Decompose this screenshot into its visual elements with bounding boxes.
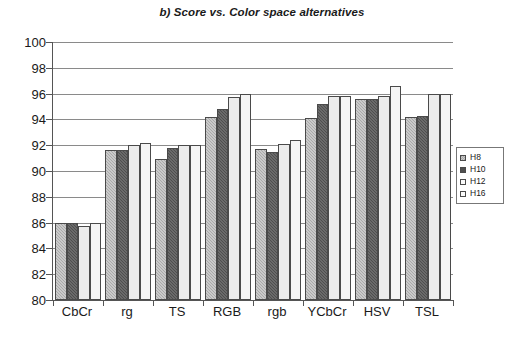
bar-HSV-H10 [367, 99, 379, 300]
x-axis-label-rgb: rgb [268, 304, 287, 319]
bar-TSL-H12 [428, 94, 440, 300]
bar-rgb-H12 [278, 144, 290, 300]
y-axis-tick-label: 98 [2, 61, 46, 74]
bar-TS-H10 [167, 148, 179, 300]
bar-TSL-H16 [440, 94, 452, 300]
bar-YCbCr-H12 [328, 96, 340, 300]
y-axis-tick [46, 274, 53, 275]
bar-rg-H12 [128, 145, 140, 300]
x-axis-label-RGB: RGB [213, 304, 241, 319]
bar-HSV-H16 [390, 86, 402, 300]
legend-item-H10[interactable]: H10 [460, 164, 500, 175]
bar-CbCr-H8 [55, 223, 67, 300]
x-axis-label-HSV: HSV [364, 304, 391, 319]
x-axis-label-YCbCr: YCbCr [307, 304, 346, 319]
y-axis-tick [46, 300, 53, 301]
bar-rgb-H16 [290, 140, 302, 300]
bar-YCbCr-H16 [340, 96, 352, 300]
chart-legend: H8H10H12H16 [456, 147, 504, 204]
legend-label: H12 [470, 177, 486, 186]
bar-TS-H16 [190, 145, 202, 300]
y-axis-tick-label: 90 [2, 165, 46, 178]
y-axis-tick-label: 82 [2, 268, 46, 281]
gridline [53, 42, 453, 43]
y-axis-tick [46, 223, 53, 224]
y-axis-tick [46, 119, 53, 120]
x-axis-label-TSL: TSL [415, 304, 439, 319]
bar-YCbCr-H10 [317, 104, 329, 300]
legend-label: H16 [470, 189, 486, 198]
bar-TSL-H10 [417, 116, 429, 300]
legend-item-H8[interactable]: H8 [460, 152, 500, 163]
y-axis-tick-label: 84 [2, 242, 46, 255]
y-axis-labels: 80828486889092949698100 [0, 42, 46, 300]
y-axis-tick [46, 94, 53, 95]
y-axis-tick-label: 88 [2, 190, 46, 203]
bar-rg-H10 [117, 150, 129, 300]
bar-CbCr-H12 [78, 226, 90, 300]
y-axis-tick-label: 96 [2, 87, 46, 100]
bar-HSV-H12 [378, 96, 390, 300]
legend-item-H12[interactable]: H12 [460, 176, 500, 187]
y-axis-tick [46, 248, 53, 249]
y-axis-tick-label: 92 [2, 139, 46, 152]
bar-RGB-H8 [205, 117, 217, 300]
x-axis-labels: CbCrrgTSRGBrgbYCbCrHSVTSL [52, 304, 452, 324]
bar-TS-H8 [155, 159, 167, 300]
bar-rgb-H8 [255, 149, 267, 300]
bar-CbCr-H10 [67, 223, 79, 300]
x-axis-tick [453, 300, 454, 306]
gridline [53, 68, 453, 69]
legend-swatch-icon [460, 155, 466, 161]
legend-swatch-icon [460, 179, 466, 185]
bar-TS-H12 [178, 145, 190, 300]
y-axis-tick [46, 197, 53, 198]
bar-rg-H16 [140, 143, 152, 300]
y-axis-tick-label: 80 [2, 294, 46, 307]
x-axis-label-TS: TS [169, 304, 186, 319]
y-axis-tick-label: 86 [2, 216, 46, 229]
legend-label: H8 [470, 153, 481, 162]
bar-RGB-H16 [240, 94, 252, 300]
y-axis-tick [46, 171, 53, 172]
chart-title: b) Score vs. Color space alternatives [0, 6, 524, 18]
y-axis-tick-label: 100 [2, 36, 46, 49]
y-axis-tick-label: 94 [2, 113, 46, 126]
bar-HSV-H8 [355, 99, 367, 300]
bar-rg-H8 [105, 150, 117, 300]
legend-swatch-icon [460, 167, 466, 173]
bar-RGB-H12 [228, 97, 240, 300]
legend-swatch-icon [460, 191, 466, 197]
bar-CbCr-H16 [90, 223, 102, 300]
bar-rgb-H10 [267, 152, 279, 300]
y-axis-tick [46, 68, 53, 69]
y-axis-tick [46, 42, 53, 43]
bar-RGB-H10 [217, 109, 229, 300]
y-axis-tick [46, 145, 53, 146]
legend-label: H10 [470, 165, 486, 174]
legend-item-H16[interactable]: H16 [460, 188, 500, 199]
x-axis-label-rg: rg [121, 304, 133, 319]
bar-chart: b) Score vs. Color space alternatives 80… [0, 0, 524, 339]
plot-area [52, 42, 453, 301]
bar-YCbCr-H8 [305, 118, 317, 300]
bar-TSL-H8 [405, 117, 417, 300]
x-axis-label-CbCr: CbCr [62, 304, 92, 319]
